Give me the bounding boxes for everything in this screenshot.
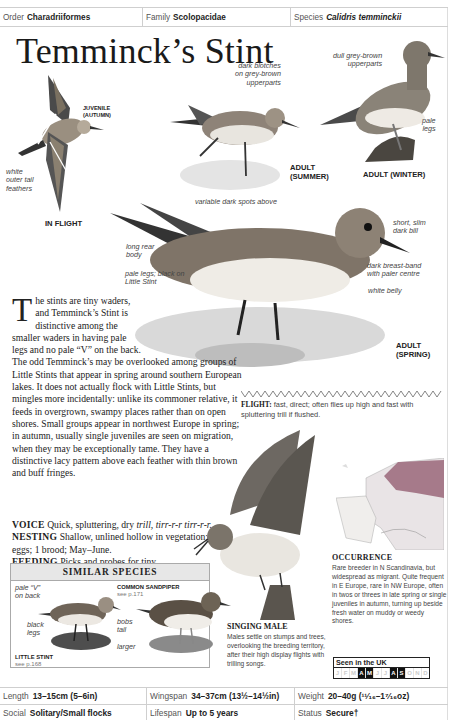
month-strip: J F M A M J J A S O N D bbox=[334, 668, 429, 678]
month-nov: N bbox=[414, 668, 422, 678]
fact-label: Wingspan bbox=[150, 691, 187, 701]
facts-row-1: Length13–15cm (5–6in) Wingspan34–37cm (1… bbox=[0, 688, 448, 705]
annotation-dull-grey-brown: dull grey-brown upperparts bbox=[333, 52, 382, 69]
annotation-line: dark bill bbox=[393, 227, 426, 235]
drop-cap: T bbox=[12, 297, 32, 323]
page-edge-rule bbox=[447, 8, 448, 720]
in-flight-bird-illustration bbox=[8, 70, 108, 215]
facts-row-2: SocialSolitary/Small flocks LifespanUp t… bbox=[0, 705, 448, 720]
seen-in-uk-calendar: Seen in the UK J F M A M J J A S O N D bbox=[333, 657, 430, 679]
fact-value: 20–40g (¹¹⁄₁₆–1⁷⁄₁₆oz) bbox=[328, 691, 409, 701]
fact-label: Length bbox=[3, 691, 29, 701]
juvenile-caption-line2: (AUTUMN) bbox=[83, 112, 111, 119]
occurrence-text: Rare breeder in N Scandinavia, but wides… bbox=[332, 564, 447, 626]
fact-value: Up to 5 years bbox=[186, 708, 239, 718]
annotation-line: with paler centre bbox=[367, 270, 421, 278]
fact-value: Solitary/Small flocks bbox=[30, 708, 112, 718]
flight-pattern-zigzag-icon bbox=[241, 390, 443, 398]
flight-label: FLIGHT: bbox=[241, 400, 272, 409]
month-dec: D bbox=[422, 668, 429, 678]
caption-line: (SUMMER) bbox=[290, 172, 329, 181]
annotation-dark-blotches: dark blotches on grey-brown upperparts bbox=[235, 62, 281, 87]
month-jul: J bbox=[382, 668, 390, 678]
family-value: Scolopacidae bbox=[173, 13, 226, 22]
annotation-white-belly: white belly bbox=[368, 287, 402, 295]
annotation-line: upperparts bbox=[333, 60, 382, 68]
annotation-white-outer-tail: white outer tail feathers bbox=[6, 168, 34, 193]
month-apr: A bbox=[358, 668, 366, 678]
field-guide-page: Order Charadriiformes Family Scolopacida… bbox=[0, 0, 450, 720]
fact-label: Weight bbox=[298, 691, 324, 701]
fact-label: Status bbox=[298, 708, 322, 718]
month-mar: M bbox=[350, 668, 358, 678]
voice-label: VOICE bbox=[12, 519, 45, 530]
fact-label: Lifespan bbox=[150, 708, 182, 718]
adult-summer-bird-illustration bbox=[160, 80, 300, 195]
adult-spring-caption: ADULT (SPRING) bbox=[396, 341, 430, 359]
annotation-line: legs bbox=[422, 125, 436, 133]
annotation-pale-legs: pale legs bbox=[422, 117, 436, 134]
fact-value: 34–37cm (13½–14½in) bbox=[191, 691, 279, 701]
fact-weight: Weight20–40g (¹¹⁄₁₆–1⁷⁄₁₆oz) bbox=[295, 688, 448, 704]
singing-male-text: Males settle on stumps and trees, overlo… bbox=[227, 633, 332, 669]
adult-winter-caption: ADULT (WINTER) bbox=[363, 170, 425, 179]
order-value: Charadriiformes bbox=[27, 13, 90, 22]
similar-species-title: SIMILAR SPECIES bbox=[11, 564, 209, 581]
annotation-line: body bbox=[126, 251, 154, 259]
order-label: Order bbox=[3, 13, 24, 22]
juvenile-caption: JUVENILE (AUTUMN) bbox=[83, 105, 111, 119]
family-cell: Family Scolopacidae bbox=[143, 8, 291, 26]
month-aug: A bbox=[390, 668, 398, 678]
common-sandpiper-illustration bbox=[136, 584, 231, 654]
fact-lifespan: LifespanUp to 5 years bbox=[147, 705, 295, 720]
range-map bbox=[336, 458, 444, 550]
annotation-dark-breast-band: dark breast-band with paler centre bbox=[367, 262, 421, 279]
month-sep: S bbox=[398, 668, 406, 678]
fact-label: Social bbox=[3, 708, 26, 718]
annotation-line: feathers bbox=[6, 185, 34, 193]
annotation-line: tail bbox=[117, 626, 133, 634]
annotation-bobs-tail: bobs tail bbox=[117, 618, 133, 635]
voice-text: Quick, spluttering, dry bbox=[47, 519, 136, 530]
caption-line: ADULT bbox=[396, 341, 430, 350]
species-cell: Species Calidris temminckii bbox=[291, 8, 448, 26]
occurrence-title: OCCURRENCE bbox=[332, 553, 392, 562]
seen-in-uk-label: Seen in the UK bbox=[334, 658, 429, 668]
singing-male-title: SINGING MALE bbox=[227, 622, 288, 631]
annotation-line: Little Stint bbox=[125, 278, 185, 286]
fact-wingspan: Wingspan34–37cm (13½–14½in) bbox=[147, 688, 295, 704]
fact-value: 13–15cm (5–6in) bbox=[33, 691, 98, 701]
annotation-variable-spots: variable dark spots above bbox=[195, 198, 277, 206]
taxonomy-bar: Order Charadriiformes Family Scolopacida… bbox=[0, 7, 448, 27]
annotation-short-slim-bill: short, slim dark bill bbox=[393, 219, 426, 236]
annotation-line: upperparts bbox=[235, 79, 281, 87]
juvenile-caption-line1: JUVENILE bbox=[83, 105, 111, 112]
nesting-entry: NESTING Shallow, unlined hollow in veget… bbox=[12, 531, 217, 556]
flight-description: FLIGHT: fast, direct; often flies up hig… bbox=[241, 400, 446, 420]
nesting-label: NESTING bbox=[12, 531, 57, 542]
voice-entry: VOICE Quick, spluttering, dry trill, tir… bbox=[12, 519, 217, 531]
little-stint-page-ref: see p.168 bbox=[15, 660, 41, 668]
month-may: M bbox=[366, 668, 374, 678]
month-feb: F bbox=[342, 668, 350, 678]
similar-species-box: SIMILAR SPECIES pale “V” on back black l… bbox=[10, 563, 210, 668]
fact-social: SocialSolitary/Small flocks bbox=[0, 705, 147, 720]
family-label: Family bbox=[146, 13, 170, 22]
annotation-larger: larger bbox=[117, 643, 135, 651]
annotation-pale-v-on-back: pale “V” on back bbox=[15, 584, 40, 601]
month-oct: O bbox=[406, 668, 414, 678]
annotation-line: on back bbox=[15, 592, 40, 600]
in-flight-caption: IN FLIGHT bbox=[45, 219, 82, 228]
common-sandpiper-page-ref: see p.171 bbox=[117, 590, 143, 598]
annotation-black-legs: black legs bbox=[27, 621, 44, 638]
facts-table: Length13–15cm (5–6in) Wingspan34–37cm (1… bbox=[0, 687, 448, 720]
month-jun: J bbox=[374, 668, 382, 678]
month-jan: J bbox=[334, 668, 342, 678]
species-label: Species bbox=[294, 13, 323, 22]
annotation-line: legs bbox=[27, 629, 44, 637]
little-stint-illustration bbox=[36, 586, 121, 651]
species-value: Calidris temminckii bbox=[326, 13, 401, 22]
fact-status: StatusSecure† bbox=[295, 705, 448, 720]
annotation-long-rear-body: long rear body bbox=[126, 243, 154, 260]
annotation-pale-legs-black-little-stint: pale legs; black on Little Stint bbox=[125, 270, 185, 287]
